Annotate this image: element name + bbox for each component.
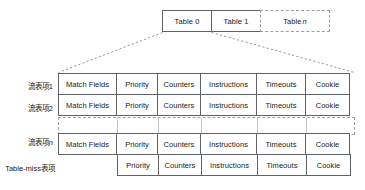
cell-timeouts[interactable]: Timeouts — [256, 133, 306, 155]
cell-instructions[interactable]: Instructions — [200, 94, 257, 116]
row-label-entry-1: 流表项1 — [0, 80, 56, 91]
table-box-label: Table — [283, 17, 301, 26]
connector-line-right — [212, 33, 355, 73]
table-row-entry-n: Match Fields Priority Counters Instructi… — [58, 133, 355, 155]
cell-instructions[interactable]: Instructions — [200, 73, 257, 95]
table-box-label: Table 1 — [224, 17, 249, 26]
table-row-table-miss: Priority Counters Instructions Timeouts … — [117, 154, 355, 176]
cell-cookie[interactable]: Cookie — [306, 154, 351, 176]
connector-line-left — [59, 33, 163, 73]
cell-cookie[interactable]: Cookie — [305, 73, 350, 95]
cell-cookie[interactable]: Cookie — [305, 133, 350, 155]
table-row-entry-2: Match Fields Priority Counters Instructi… — [58, 94, 355, 116]
row-label-entry-n-index: n — [49, 138, 53, 147]
row-label-entry-2: 流表项2 — [0, 102, 56, 113]
cell-timeouts[interactable]: Timeouts — [256, 73, 306, 95]
table-box-table-0[interactable]: Table 0 — [162, 10, 212, 32]
cell-priority[interactable]: Priority — [117, 154, 159, 176]
table-row-entry-1: Match Fields Priority Counters Instructi… — [58, 73, 355, 95]
cell-counters[interactable]: Counters — [157, 133, 201, 155]
cell-priority[interactable]: Priority — [116, 94, 158, 116]
cell-counters[interactable]: Counters — [158, 154, 202, 176]
cell-priority[interactable]: Priority — [116, 73, 158, 95]
table-box-table-n[interactable]: Table n — [260, 10, 330, 32]
cell-match-fields[interactable]: Match Fields — [58, 73, 117, 95]
cell-timeouts[interactable]: Timeouts — [256, 94, 306, 116]
cell-match-fields[interactable]: Match Fields — [58, 133, 117, 155]
cell-instructions[interactable]: Instructions — [201, 154, 258, 176]
cell-counters[interactable]: Counters — [157, 94, 201, 116]
table-box-index: n — [302, 17, 307, 26]
table-box-table-1[interactable]: Table 1 — [211, 10, 261, 32]
cell-timeouts[interactable]: Timeouts — [257, 154, 307, 176]
cell-match-fields[interactable]: Match Fields — [58, 94, 117, 116]
cell-cookie[interactable]: Cookie — [305, 94, 350, 116]
row-label-entry-n-prefix: 流表项 — [28, 138, 49, 147]
row-label-table-miss: Table-miss表项 — [0, 162, 58, 173]
flow-table: Match Fields Priority Counters Instructi… — [58, 73, 355, 177]
table-box-label: Table 0 — [175, 17, 200, 26]
cell-priority[interactable]: Priority — [116, 133, 158, 155]
row-label-entry-n: 流表项n — [0, 136, 56, 147]
cell-instructions[interactable]: Instructions — [200, 133, 257, 155]
cell-counters[interactable]: Counters — [157, 73, 201, 95]
flow-table-diagram: Table 0 Table 1 Table n 流表项1 流表项2 流表项n T… — [0, 0, 365, 190]
